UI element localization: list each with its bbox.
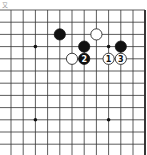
black-stone[interactable] <box>115 41 126 52</box>
black-stone[interactable] <box>79 41 90 52</box>
white-stone-1[interactable]: 1 <box>103 53 114 64</box>
go-board[interactable]: 213 <box>0 0 147 155</box>
black-stone[interactable] <box>54 29 65 40</box>
star-point <box>34 118 38 122</box>
move-number: 2 <box>81 55 87 64</box>
star-point <box>34 45 38 49</box>
white-stone-3[interactable]: 3 <box>115 53 126 64</box>
black-stone-2[interactable]: 2 <box>79 53 90 64</box>
white-stone[interactable] <box>66 53 77 64</box>
move-number: 1 <box>106 55 112 64</box>
move-number: 3 <box>118 55 124 64</box>
star-point <box>107 118 111 122</box>
star-point <box>107 45 111 49</box>
white-stone[interactable] <box>91 29 102 40</box>
